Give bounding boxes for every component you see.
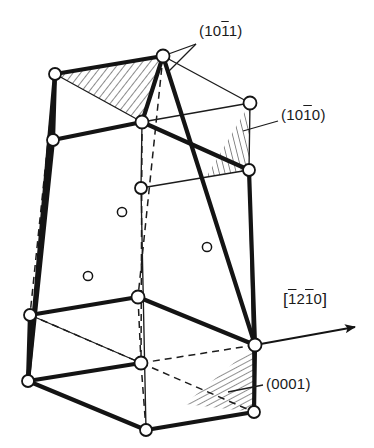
atom-top-corner-6 — [135, 182, 147, 194]
atom-midplane-3 — [83, 271, 92, 280]
direction-index-3: 1 — [305, 290, 314, 307]
shaded-planes — [55, 56, 255, 412]
pyramidal-close-paren: ) — [237, 22, 242, 39]
bottom-edge-ne — [138, 297, 255, 345]
atom-bottom-corner-1 — [22, 375, 34, 387]
atom-top-corner-5 — [243, 164, 255, 176]
label-basal-plane: (0001) — [266, 375, 311, 392]
prismatic-index-2: 0 — [295, 106, 304, 123]
pyramidal-index-2: 0 — [213, 22, 222, 39]
atom-bottom-corner-5 — [248, 406, 260, 418]
atom-top-corner-4 — [244, 97, 257, 110]
pyramidal-index-4: 1 — [229, 22, 238, 39]
leader-lines — [163, 44, 278, 392]
top-edge-sw — [53, 122, 142, 140]
atom-top-corner-1 — [47, 134, 59, 146]
prismatic-index-1: 1 — [286, 106, 295, 123]
bottom-edge-nw — [30, 297, 138, 315]
top-spoke-6 — [141, 122, 142, 188]
atom-midplane-2 — [202, 242, 211, 251]
atom-top-corner-3 — [157, 50, 170, 63]
atom-bottom-corner-3 — [132, 291, 145, 304]
bottom-mid-edge — [28, 363, 141, 381]
label-direction: [1210] — [283, 290, 327, 310]
atom-bottom-corner-6 — [140, 424, 152, 436]
label-prismatic-plane: (1010) — [281, 106, 326, 123]
direction-close-bracket: ] — [322, 290, 327, 309]
bottom-edge-e — [254, 345, 255, 412]
label-pyramidal-plane: (1011) — [199, 22, 242, 39]
basal-index-1: 0 — [271, 375, 280, 392]
pyramidal-long-trace — [163, 56, 255, 345]
top-edge-se — [141, 170, 249, 188]
vertical-left-outer — [28, 74, 55, 381]
unit-cell-svg — [0, 0, 374, 448]
direction-arrow — [255, 327, 355, 345]
atom-bottom-center — [135, 357, 148, 370]
pyramidal-index-1: 1 — [204, 22, 213, 39]
atom-top-center — [136, 116, 149, 129]
hcp-crystal-diagram: (1011) (1010) [1210] (0001) — [0, 0, 374, 448]
atom-bottom-corner-4 — [249, 339, 262, 352]
direction-index-4: 0 — [314, 290, 323, 307]
bottom-edge-w — [28, 315, 30, 381]
basal-index-2: 0 — [280, 375, 289, 392]
bottom-spoke-2 — [30, 315, 141, 363]
prismatic-index-3: 1 — [303, 106, 312, 123]
atom-bottom-corner-2 — [24, 309, 36, 321]
pyramidal-index-3: 1 — [221, 22, 228, 39]
basal-close-paren: ) — [305, 375, 310, 392]
basal-plane-fill — [185, 345, 255, 412]
bottom-edge-s — [146, 412, 254, 430]
direction-index-2: 2 — [296, 290, 305, 307]
bottom-edge-sw — [28, 381, 146, 430]
atom-top-corner-2 — [49, 68, 61, 80]
atom-midplane-1 — [117, 207, 126, 216]
prismatic-close-paren: ) — [320, 106, 325, 123]
leader-pyramidal-2 — [168, 44, 196, 72]
vertical-right-front — [249, 170, 255, 345]
basal-index-3: 0 — [288, 375, 297, 392]
